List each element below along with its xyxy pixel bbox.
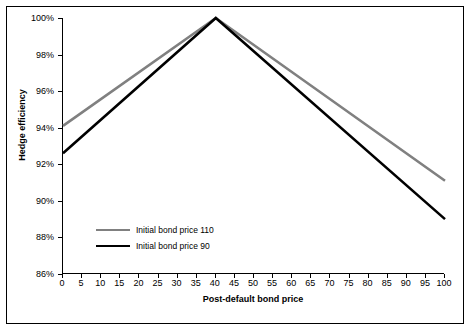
x-axis-tick-label: 90 xyxy=(401,278,411,288)
x-axis-tick xyxy=(425,274,426,278)
x-axis-tick-label: 100 xyxy=(436,278,451,288)
chart-legend: Initial bond price 110 Initial bond pric… xyxy=(96,222,296,254)
x-axis-tick-label: 70 xyxy=(324,278,334,288)
line-series-0 xyxy=(63,18,445,181)
x-axis-tick-label: 15 xyxy=(114,278,124,288)
x-axis-tick xyxy=(196,274,197,278)
x-axis-title: Post-default bond price xyxy=(62,294,444,304)
y-axis-tick-label: 88% xyxy=(36,232,54,242)
y-axis-title: Hedge efficiency xyxy=(17,55,27,195)
x-axis-tick xyxy=(349,274,350,278)
x-axis-tick-label: 0 xyxy=(59,278,64,288)
x-axis-tick xyxy=(215,274,216,278)
x-axis-tick-label: 55 xyxy=(267,278,277,288)
x-axis-tick-label: 65 xyxy=(305,278,315,288)
legend-color-swatch xyxy=(96,229,130,231)
y-axis-tick-label: 94% xyxy=(36,123,54,133)
x-axis-tick xyxy=(119,274,120,278)
x-axis-tick-label: 35 xyxy=(191,278,201,288)
x-axis-tick xyxy=(272,274,273,278)
x-axis-labels: 0510152025303540455055606570758085909510… xyxy=(62,278,444,292)
y-axis-tick-label: 98% xyxy=(36,50,54,60)
x-axis-tick xyxy=(177,274,178,278)
x-axis-tick-label: 60 xyxy=(286,278,296,288)
x-axis-tick xyxy=(329,274,330,278)
x-axis-tick xyxy=(253,274,254,278)
legend-item-label: Initial bond price 90 xyxy=(136,241,210,251)
x-axis-tick-label: 30 xyxy=(172,278,182,288)
y-axis-tick xyxy=(58,55,62,56)
x-axis-tick xyxy=(368,274,369,278)
y-axis-tick-label: 100% xyxy=(31,13,54,23)
x-axis-tick xyxy=(234,274,235,278)
x-axis-tick-label: 40 xyxy=(210,278,220,288)
x-axis-tick-label: 45 xyxy=(229,278,239,288)
x-axis-tick xyxy=(138,274,139,278)
x-axis-tick xyxy=(444,274,445,278)
x-axis-tick xyxy=(406,274,407,278)
line-series-1 xyxy=(63,18,445,219)
x-axis-tick-label: 25 xyxy=(152,278,162,288)
y-axis-tick xyxy=(58,237,62,238)
x-axis-tick-label: 5 xyxy=(79,278,84,288)
x-axis-tick-label: 20 xyxy=(133,278,143,288)
x-axis-tick xyxy=(291,274,292,278)
x-axis-tick-label: 95 xyxy=(420,278,430,288)
x-axis-tick-label: 80 xyxy=(363,278,373,288)
y-axis-tick xyxy=(58,18,62,19)
legend-item-0: Initial bond price 110 xyxy=(96,222,296,238)
chart-container: 86%88%90%92%94%96%98%100% 05101520253035… xyxy=(0,0,472,334)
legend-item-1: Initial bond price 90 xyxy=(96,238,296,254)
x-axis-tick-label: 75 xyxy=(343,278,353,288)
x-axis-tick xyxy=(387,274,388,278)
y-axis-tick-label: 96% xyxy=(36,86,54,96)
y-axis-tick xyxy=(58,91,62,92)
x-axis-tick xyxy=(158,274,159,278)
y-axis-tick-label: 90% xyxy=(36,196,54,206)
y-axis-tick xyxy=(58,128,62,129)
x-axis-tick-label: 10 xyxy=(95,278,105,288)
legend-item-label: Initial bond price 110 xyxy=(136,225,214,235)
y-axis-tick xyxy=(58,164,62,165)
x-axis-tick xyxy=(100,274,101,278)
y-axis-tick-label: 92% xyxy=(36,159,54,169)
x-axis-tick xyxy=(81,274,82,278)
x-axis-tick xyxy=(310,274,311,278)
y-axis-tick-label: 86% xyxy=(36,269,54,279)
x-axis-tick xyxy=(62,274,63,278)
x-axis-tick-label: 50 xyxy=(248,278,258,288)
legend-color-swatch xyxy=(96,245,130,247)
x-axis-tick-label: 85 xyxy=(382,278,392,288)
y-axis-tick xyxy=(58,201,62,202)
